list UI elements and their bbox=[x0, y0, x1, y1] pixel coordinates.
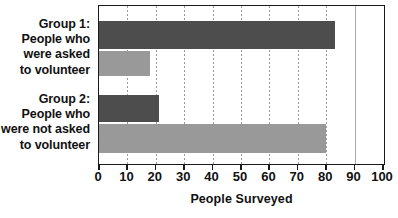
category-label-group-1: Group 1: People who were asked to volunt… bbox=[0, 17, 90, 78]
tick-label-40: 40 bbox=[204, 169, 218, 184]
bar-group-2-dark[interactable] bbox=[99, 95, 159, 122]
category-label-line: People who bbox=[0, 32, 90, 47]
tick-label-0: 0 bbox=[94, 169, 101, 184]
tick-label-100: 100 bbox=[371, 169, 393, 184]
x-axis-title: People Surveyed bbox=[98, 192, 385, 206]
tick-label-60: 60 bbox=[261, 169, 275, 184]
category-label-line: People who bbox=[0, 107, 90, 122]
category-label-line: were not asked bbox=[0, 122, 90, 137]
category-label-group-2: Group 2: People who were not asked to vo… bbox=[0, 92, 90, 153]
bar-group-1-dark[interactable] bbox=[99, 21, 335, 49]
category-label-line: to volunteer bbox=[0, 63, 90, 78]
category-label-line: Group 2: bbox=[0, 92, 90, 107]
tick-label-10: 10 bbox=[119, 169, 133, 184]
bar-group-1-light[interactable] bbox=[99, 51, 150, 76]
bar-group-2-light[interactable] bbox=[99, 124, 326, 153]
category-label-line: to volunteer bbox=[0, 138, 90, 153]
tick-label-80: 80 bbox=[318, 169, 332, 184]
category-label-line: Group 1: bbox=[0, 17, 90, 32]
tick-label-90: 90 bbox=[346, 169, 360, 184]
tick-label-50: 50 bbox=[233, 169, 247, 184]
category-label-group: Group 1: People who were asked to volunt… bbox=[0, 0, 94, 165]
tick-label-30: 30 bbox=[176, 169, 190, 184]
bars-layer bbox=[99, 6, 384, 164]
category-label-line: were asked bbox=[0, 47, 90, 62]
plot-area bbox=[98, 5, 385, 165]
tick-label-70: 70 bbox=[290, 169, 304, 184]
tick-label-20: 20 bbox=[148, 169, 162, 184]
bar-chart: Group 1: People who were asked to volunt… bbox=[0, 0, 398, 218]
x-axis-tick-labels: 0102030405060708090100 bbox=[98, 169, 385, 189]
